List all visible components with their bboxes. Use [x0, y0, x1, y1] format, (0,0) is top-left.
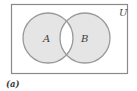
venn-diagram-canvas: U A B (a)	[0, 0, 137, 91]
set-a-label: A	[42, 33, 50, 44]
venn-diagram-figure: U A B (a)	[0, 0, 137, 91]
universe-label: U	[119, 7, 128, 18]
figure-caption: (a)	[6, 79, 20, 89]
set-b-label: B	[80, 33, 88, 44]
